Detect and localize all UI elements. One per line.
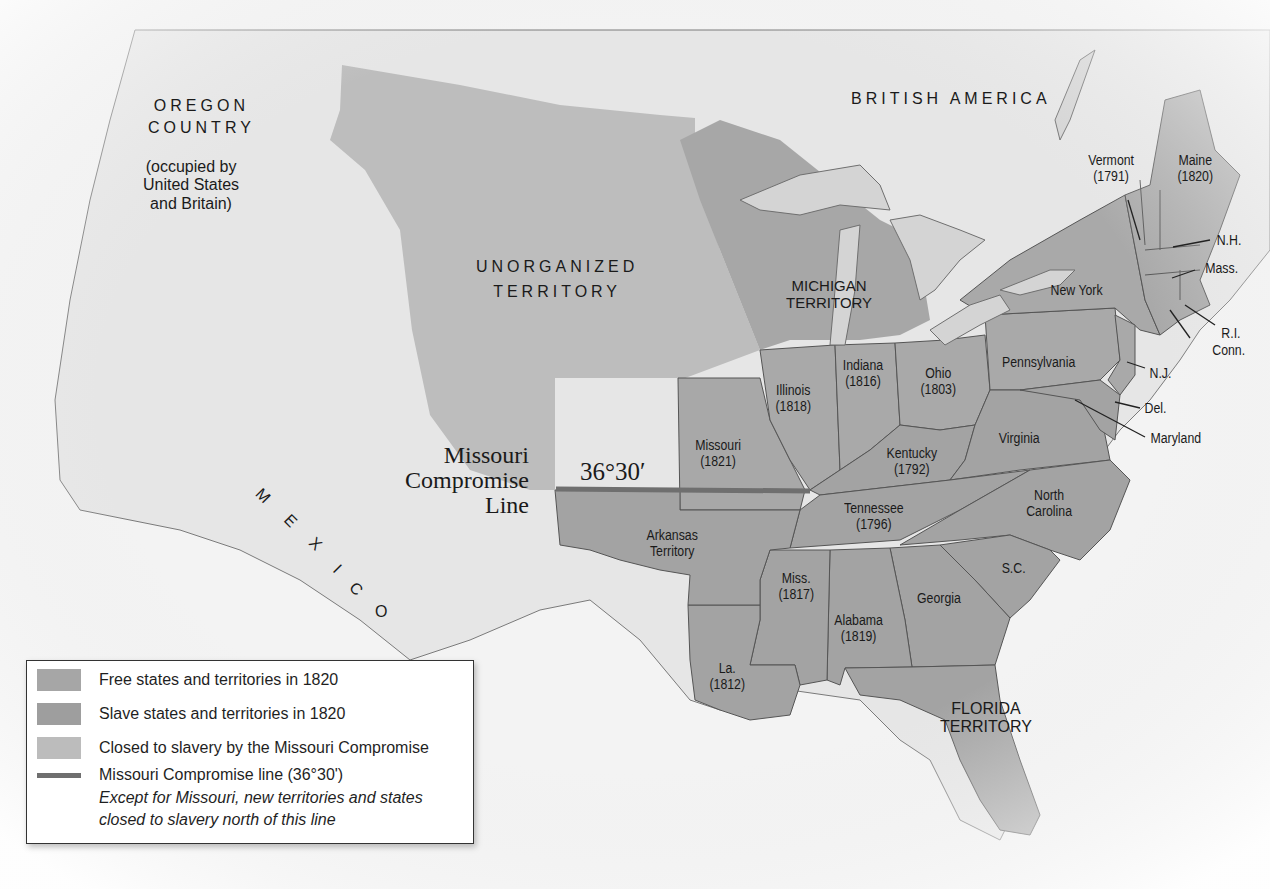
label-nj: N.J. [1149,365,1171,381]
legend-item-closed: Closed to slavery by the Missouri Compro… [37,737,429,759]
label-oregon-note: (occupied by United States and Britain) [143,158,239,213]
label-kentucky: Kentucky(1792) [886,445,937,477]
map-legend: Free states and territories in 1820 Slav… [26,660,474,844]
legend-label: Free states and territories in 1820 [99,671,338,689]
closed-swatch-icon [37,737,81,759]
compromise-line-swatch-icon [37,773,81,778]
label-british-america: BRITISH AMERICA [851,90,1051,108]
label-compromise-line-title: Missouri Compromise Line [405,443,529,519]
label-oregon-country: OREGON COUNTRY [148,97,255,138]
legend-item-compromise-line: Missouri Compromise line (36°30') [37,764,343,786]
label-new-york: New York [1051,282,1103,298]
label-florida-territory: FLORIDA TERRITORY [940,700,1032,737]
label-maine: Maine(1820) [1177,152,1213,184]
label-missouri: Missouri(1821) [695,437,741,469]
label-nh: N.H. [1217,232,1242,248]
legend-label: Closed to slavery by the Missouri Compro… [99,739,429,757]
label-sc: S.C. [1002,560,1026,576]
legend-label: Missouri Compromise line (36°30') [99,766,343,784]
legend-item-free: Free states and territories in 1820 [37,669,338,691]
label-north-carolina: NorthCarolina [1026,487,1072,519]
legend-item-slave: Slave states and territories in 1820 [37,703,345,725]
label-ri: R.I. [1221,325,1240,341]
label-latitude-36-30: 36°30′ [580,458,645,487]
label-maryland: Maryland [1150,430,1201,446]
slave-swatch-icon [37,703,81,725]
legend-note: Except for Missouri, new territories and… [99,787,423,830]
label-pennsylvania: Pennsylvania [1002,354,1075,370]
label-unorganized-territory: UNORGANIZED TERRITORY [476,258,638,302]
label-georgia: Georgia [917,590,961,606]
label-del: Del. [1144,400,1166,416]
label-mississippi: Miss.(1817) [778,570,814,602]
label-mass: Mass. [1205,260,1238,276]
label-vermont: Vermont(1791) [1088,152,1134,184]
label-conn: Conn. [1212,342,1245,358]
label-michigan-territory: MICHIGAN TERRITORY [786,277,872,312]
label-indiana: Indiana(1816) [843,357,883,389]
label-virginia: Virginia [999,430,1040,446]
label-louisiana: La.(1812) [709,660,745,692]
label-illinois: Illinois(1818) [775,382,811,414]
label-arkansas-territory: ArkansasTerritory [647,527,698,559]
label-alabama: Alabama(1819) [834,612,883,644]
free-swatch-icon [37,669,81,691]
label-ohio: Ohio(1803) [920,365,956,397]
label-tennessee: Tennessee(1796) [844,500,904,532]
legend-label: Slave states and territories in 1820 [99,705,345,723]
label-mexico-o: O [375,603,387,621]
